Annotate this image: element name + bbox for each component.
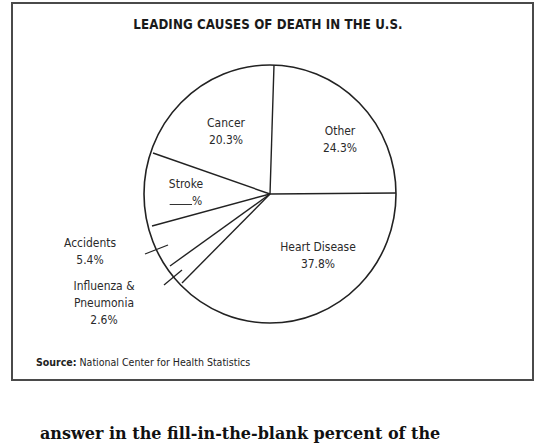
label-flu-name-2: Pneumonia [61,294,147,311]
label-stroke-pct-row: % [160,192,212,209]
boundary-other-heart [270,193,396,194]
label-cancer-name: Cancer [192,114,261,131]
label-stroke: Stroke % [160,175,212,209]
cut-off-text: answer in the fill-in-the-blank percent … [40,424,440,443]
label-flu: Influenza & Pneumonia 2.6% [61,277,147,328]
label-accidents-pct: 5.4% [56,251,125,268]
label-heart-pct: 37.8% [266,255,369,272]
label-heart-name: Heart Disease [266,238,369,255]
label-heart: Heart Disease 37.8% [266,238,369,272]
label-accidents: Accidents 5.4% [56,234,125,268]
source-text: National Center for Health Statistics [80,356,251,369]
label-flu-pct: 2.6% [61,311,147,328]
stroke-blank [170,192,192,205]
label-stroke-pct: % [192,193,202,208]
source-label: Source: [36,356,77,369]
label-cancer-pct: 20.3% [192,131,261,148]
label-accidents-name: Accidents [56,234,125,251]
label-stroke-name: Stroke [160,175,212,192]
label-other-pct: 24.3% [306,139,375,156]
source-note: Source: National Center for Health Stati… [36,356,250,369]
label-flu-name-1: Influenza & [61,277,147,294]
label-other: Other 24.3% [306,122,375,156]
label-other-name: Other [306,122,375,139]
label-cancer: Cancer 20.3% [192,114,261,148]
